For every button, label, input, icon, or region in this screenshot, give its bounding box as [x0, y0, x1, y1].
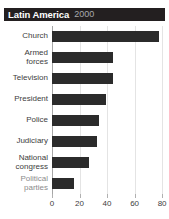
- x-tick-label: 60: [130, 199, 139, 209]
- bar-row[interactable]: Political parties: [0, 173, 169, 194]
- chart-year-label: 2000: [74, 10, 94, 19]
- x-axis: 020406080: [52, 194, 169, 219]
- bar-row[interactable]: National congress: [0, 152, 169, 173]
- x-tick-label: 80: [158, 199, 167, 209]
- page-title: Latin America: [8, 10, 69, 20]
- bar-category-label: Political parties: [0, 175, 48, 192]
- bar[interactable]: [52, 178, 74, 189]
- bar-row[interactable]: Judiciary: [0, 131, 169, 152]
- bar[interactable]: [52, 157, 89, 168]
- bar-row[interactable]: Police: [0, 110, 169, 131]
- x-tick-mark: [162, 194, 163, 198]
- bar-row[interactable]: Church: [0, 26, 169, 47]
- bar-category-label: National congress: [0, 154, 48, 171]
- bar-category-label: Television: [0, 74, 48, 83]
- bar-rows: ChurchArmed forcesTelevisionPresidentPol…: [0, 26, 169, 194]
- x-tick-mark: [135, 194, 136, 198]
- x-tick-mark: [107, 194, 108, 198]
- bar-row[interactable]: Armed forces: [0, 47, 169, 68]
- bar-category-label: Armed forces: [0, 49, 48, 66]
- x-tick-label: 40: [103, 199, 112, 209]
- bar-category-label: Judiciary: [0, 137, 48, 146]
- bar-chart-figure: Latin America 2000 ChurchArmed forcesTel…: [0, 0, 169, 219]
- bar-row[interactable]: Television: [0, 68, 169, 89]
- bar[interactable]: [52, 52, 113, 63]
- bar-category-label: Police: [0, 116, 48, 125]
- bar[interactable]: [52, 31, 159, 42]
- x-tick-label: 0: [50, 199, 54, 209]
- bar-category-label: Church: [0, 32, 48, 41]
- bar[interactable]: [52, 94, 106, 105]
- x-tick-label: 20: [75, 199, 84, 209]
- bar[interactable]: [52, 136, 97, 147]
- bar-category-label: President: [0, 95, 48, 104]
- bar[interactable]: [52, 115, 99, 126]
- bar-row[interactable]: President: [0, 89, 169, 110]
- bar[interactable]: [52, 73, 113, 84]
- x-tick-mark: [80, 194, 81, 198]
- chart-title-bar: Latin America 2000: [4, 8, 165, 21]
- x-tick-mark: [52, 194, 53, 198]
